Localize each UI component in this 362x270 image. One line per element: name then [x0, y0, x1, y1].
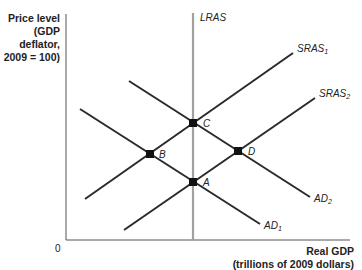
ad1-label: AD1 — [263, 220, 282, 232]
point-d-label: D — [248, 146, 255, 157]
point-c-label: C — [203, 118, 211, 129]
ad2-label: AD2 — [313, 193, 332, 205]
point-b-label: B — [159, 149, 166, 160]
point-b-marker — [146, 150, 154, 158]
sras1-label: SRAS1 — [297, 43, 328, 55]
point-c-marker — [189, 119, 197, 127]
ad1-line — [80, 109, 260, 224]
sras2-label: SRAS2 — [319, 88, 350, 100]
point-d-marker — [234, 147, 242, 155]
sras2-line — [124, 98, 315, 230]
point-a-label: A — [202, 177, 210, 188]
lras-label: LRAS — [200, 12, 226, 23]
point-a-marker — [189, 178, 197, 186]
ad2-line — [129, 81, 310, 197]
ad-as-diagram: LRAS SRAS1 SRAS2 AD1 AD2 A B C D — [0, 0, 362, 270]
